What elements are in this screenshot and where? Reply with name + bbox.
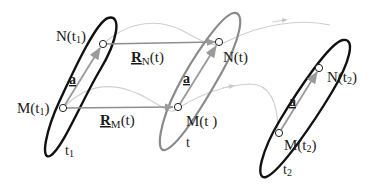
label-M-t1: M(t1)	[17, 100, 50, 117]
label-M-t2: M(t2)	[284, 137, 317, 154]
point-M-t2	[275, 129, 282, 136]
body-t	[160, 13, 240, 150]
point-M-t1	[59, 104, 66, 111]
label-N-t: N(t)	[223, 49, 248, 66]
point-M-t	[174, 103, 181, 110]
label-RM: RM(t)	[100, 112, 135, 130]
point-N-t	[215, 38, 222, 45]
label-N-t1: N(t1)	[56, 28, 86, 45]
label-time-t2: t2	[283, 162, 292, 178]
label-time-t1: t1	[65, 143, 74, 159]
label-RN: RN(t)	[131, 49, 164, 67]
point-N-t1	[99, 40, 106, 47]
label-a-1: a	[69, 72, 76, 87]
body-t2	[260, 40, 350, 177]
label-N-t2: N(t2)	[327, 69, 357, 86]
translation-diagram: N(t1) M(t1) a t1 N(t) M(t ) a t N(t2) M(…	[0, 0, 372, 186]
label-time-t: t	[186, 135, 190, 150]
label-a-3: a	[289, 94, 296, 109]
label-M-t: M(t )	[186, 113, 217, 130]
position-vector-RN	[103, 42, 215, 44]
point-N-t2	[315, 64, 322, 71]
label-a-2: a	[183, 71, 190, 86]
